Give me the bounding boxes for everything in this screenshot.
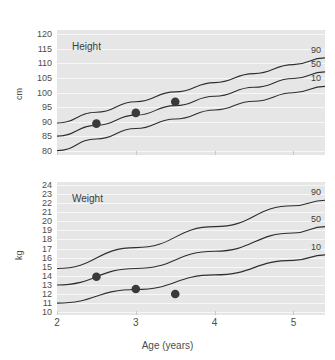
measurement-point	[92, 272, 101, 281]
x-tick-mark	[57, 311, 58, 315]
measurement-point	[171, 98, 180, 107]
percentile-label-90: 90	[311, 45, 321, 55]
height-x-tick-mark	[136, 151, 137, 155]
height-x-tick-mark	[57, 151, 58, 155]
percentile-label-10: 10	[311, 242, 321, 252]
x-tick-mark	[215, 311, 216, 315]
percentile-label-90: 90	[311, 187, 321, 197]
measurement-point	[132, 109, 141, 118]
percentile-label-50: 50	[311, 59, 321, 69]
x-tick-label: 4	[205, 318, 225, 328]
height-x-tick-mark	[293, 151, 294, 155]
percentile-curve-90	[57, 200, 325, 268]
x-tick-label: 2	[47, 318, 67, 328]
height-chart-panel: 80859095100105110115120 cm Height 905010	[0, 0, 335, 160]
weight-curves-svg	[0, 175, 335, 360]
percentile-label-10: 10	[311, 73, 321, 83]
measurement-point	[132, 285, 141, 294]
measurement-point	[92, 119, 101, 128]
measurement-point	[171, 290, 180, 299]
percentile-curve-10	[57, 86, 325, 150]
percentile-curve-90	[57, 58, 325, 123]
percentile-label-50: 50	[311, 214, 321, 224]
height-curves-svg	[0, 0, 335, 160]
x-tick-label: 5	[283, 318, 303, 328]
x-tick-mark	[136, 311, 137, 315]
growth-chart-figure: 80859095100105110115120 cm Height 905010…	[0, 0, 335, 360]
x-axis-title: Age (years)	[0, 340, 335, 351]
weight-chart-panel: 101112131415161718192021222324 kg Weight…	[0, 175, 335, 360]
x-tick-mark	[293, 311, 294, 315]
x-tick-label: 3	[126, 318, 146, 328]
height-x-tick-mark	[215, 151, 216, 155]
